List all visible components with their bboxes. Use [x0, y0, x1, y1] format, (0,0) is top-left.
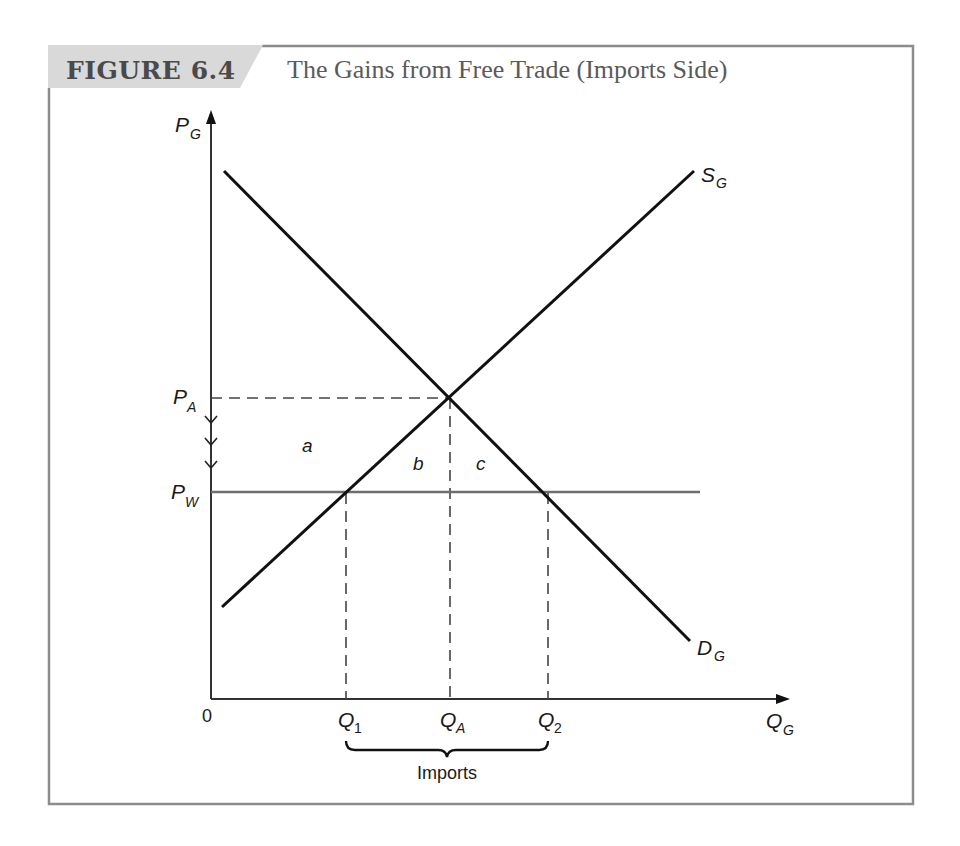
demand-label: D G: [697, 636, 725, 664]
supply-curve: [222, 171, 694, 607]
imports-brace: [346, 741, 548, 757]
figure-number: FIGURE 6.4: [66, 56, 236, 85]
svg-text:Q: Q: [766, 709, 782, 732]
svg-text:Q: Q: [338, 708, 354, 731]
svg-text:G: G: [783, 722, 794, 738]
figure-title: The Gains from Free Trade (Imports Side): [287, 55, 727, 84]
y-axis: [206, 110, 216, 699]
region-a-label: a: [302, 435, 313, 456]
svg-text:2: 2: [554, 720, 562, 736]
svg-text:W: W: [185, 494, 200, 510]
svg-text:A: A: [186, 399, 196, 415]
svg-text:G: G: [714, 648, 725, 664]
figure-frame: [48, 45, 913, 804]
q2-label: Q 2: [538, 708, 562, 736]
q1-label: Q 1: [338, 708, 362, 736]
region-b-label: b: [413, 453, 424, 474]
region-c-label: c: [476, 453, 486, 474]
svg-text:Q: Q: [440, 708, 456, 731]
pw-label: P W: [171, 480, 200, 510]
svg-text:G: G: [190, 126, 201, 142]
y-axis-label: P G: [175, 113, 201, 142]
y-axis-arrow-icon: [206, 110, 216, 124]
origin-label: 0: [202, 706, 212, 726]
svg-text:A: A: [455, 720, 465, 736]
svg-text:S: S: [701, 163, 715, 186]
x-axis: [211, 694, 790, 704]
x-axis-label: Q G: [766, 709, 794, 738]
figure: FIGURE 6.4 The Gains from Free Trade (Im…: [0, 0, 960, 846]
svg-text:P: P: [171, 480, 185, 503]
dashed-guides: [211, 398, 548, 699]
qa-label: Q A: [440, 708, 465, 736]
svg-text:1: 1: [354, 720, 362, 736]
svg-text:Q: Q: [538, 708, 554, 731]
demand-curve: [224, 171, 690, 641]
svg-text:G: G: [716, 175, 727, 191]
pa-label: P A: [173, 385, 196, 415]
svg-text:P: P: [173, 385, 187, 408]
svg-text:P: P: [175, 113, 189, 136]
imports-label: Imports: [417, 763, 477, 783]
supply-label: S G: [701, 163, 727, 191]
chart-canvas: FIGURE 6.4 The Gains from Free Trade (Im…: [0, 0, 960, 846]
x-axis-arrow-icon: [776, 694, 790, 704]
svg-text:D: D: [697, 636, 712, 659]
